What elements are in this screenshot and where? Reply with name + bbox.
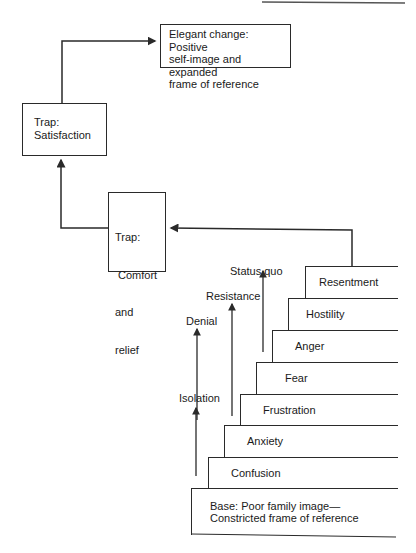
trap-comfort-line-3: and [115,306,165,319]
elegant-change-box: Elegant change: Positive self-image and … [160,24,291,68]
trap-comfort-line-4: relief [115,344,165,357]
label-resistance: Resistance [206,290,260,302]
trap-satisfaction-line-2: Satisfaction [34,129,106,142]
step-anger: Anger [272,330,398,362]
step-label: Anxiety [247,435,283,447]
trap-comfort-box: Trap: Comfort and relief [108,192,166,272]
elegant-change-line-2: self-image and expanded [169,53,282,78]
step-label: Resentment [319,276,378,288]
step-label: Anger [295,340,324,352]
label-status-quo: Status quo [230,265,283,277]
base-line-2: Constricted frame of reference [210,512,359,524]
trap-comfort-line-1: Trap: [115,231,165,244]
elegant-change-line-3: frame of reference [169,78,282,91]
elegant-change-line-1: Elegant change: Positive [169,28,282,53]
label-denial: Denial [186,315,217,327]
step-fear: Fear [256,362,398,394]
step-label: Hostility [306,308,345,320]
step-base: Base: Poor family image— Constricted fra… [191,488,398,535]
step-frustration: Frustration [240,394,398,426]
trap-comfort-line-2: Comfort [115,269,165,282]
trap-satisfaction-line-1: Trap: [34,116,106,129]
label-isolation: Isolation [179,392,220,404]
step-resentment: Resentment [305,266,398,298]
step-label: Frustration [263,404,316,416]
step-confusion: Confusion [208,457,398,489]
step-hostility: Hostility [288,298,398,330]
step-anxiety: Anxiety [224,425,398,457]
step-label: Confusion [231,467,281,479]
base-line-1: Base: Poor family image— [210,500,340,512]
step-label: Fear [285,372,308,384]
trap-satisfaction-box: Trap: Satisfaction [22,103,107,156]
